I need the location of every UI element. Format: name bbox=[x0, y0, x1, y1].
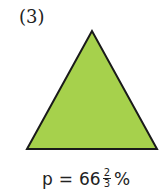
triangle-shape bbox=[0, 0, 164, 195]
caption-variable: p bbox=[42, 169, 53, 189]
caption-whole: 66 bbox=[79, 169, 101, 189]
fraction-denominator: 3 bbox=[104, 179, 110, 189]
caption-fraction: 2 3 bbox=[103, 168, 111, 189]
triangle bbox=[27, 31, 157, 149]
caption-equals: = bbox=[59, 169, 73, 189]
percentage-caption: p = 66 2 3 % bbox=[42, 168, 130, 189]
caption-unit: % bbox=[114, 169, 130, 189]
